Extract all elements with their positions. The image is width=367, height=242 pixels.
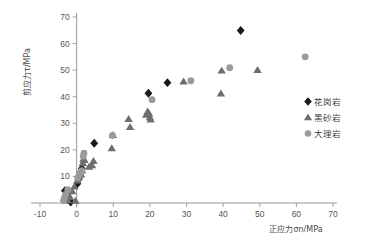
chart-canvas: -1001020304050607010203040506070正应力σn/MP… — [0, 0, 367, 242]
x-tick-label: 30 — [182, 209, 192, 219]
data-point — [64, 186, 71, 193]
chart-legend: 花岗岩黑砂岩大理岩 — [304, 97, 341, 139]
x-tick-label: 20 — [145, 209, 155, 219]
y-tick-label: 50 — [60, 65, 70, 75]
legend-marker-diamond — [304, 97, 312, 106]
x-tick-label: 70 — [328, 209, 338, 219]
y-axis-title: 剪应力τ/MPa — [22, 48, 32, 96]
series-2-points — [64, 66, 262, 204]
legend-label: 大理岩 — [314, 129, 341, 139]
data-point — [81, 150, 88, 157]
scatter-chart: -1001020304050607010203040506070正应力σn/MP… — [0, 0, 367, 242]
data-point — [302, 53, 309, 60]
y-tick-label: 10 — [60, 171, 70, 181]
data-point — [108, 144, 116, 151]
data-point — [90, 139, 98, 148]
y-tick-label: 40 — [60, 92, 70, 102]
data-point — [126, 123, 134, 130]
data-point — [253, 66, 261, 73]
x-tick-label: 40 — [218, 209, 228, 219]
x-axis-title: 正应力σn/MPa — [269, 224, 322, 234]
data-point — [217, 89, 225, 96]
legend-label: 黑砂岩 — [314, 113, 341, 123]
data-point — [164, 78, 172, 87]
legend-marker-triangle — [304, 114, 312, 121]
series-3-points — [60, 53, 309, 204]
data-point — [179, 78, 187, 85]
legend-label: 花岗岩 — [314, 97, 341, 107]
data-point — [78, 167, 85, 174]
data-point — [237, 26, 245, 35]
legend-marker-circle — [305, 130, 312, 137]
data-point — [226, 64, 233, 71]
data-point — [109, 132, 116, 139]
x-tick-label: 50 — [255, 209, 265, 219]
x-tick-label: 10 — [109, 209, 119, 219]
y-tick-label: 60 — [60, 39, 70, 49]
data-point — [187, 77, 194, 84]
x-tick-label: 0 — [74, 209, 79, 219]
y-tick-label: 30 — [60, 118, 70, 128]
y-tick-label: 20 — [60, 145, 70, 155]
data-point — [124, 115, 132, 122]
y-tick-label: 70 — [60, 12, 70, 22]
data-point — [149, 96, 156, 103]
x-tick-label: 60 — [292, 209, 302, 219]
x-tick-label: -10 — [34, 209, 47, 219]
data-point — [217, 67, 225, 74]
data-point — [89, 157, 97, 164]
